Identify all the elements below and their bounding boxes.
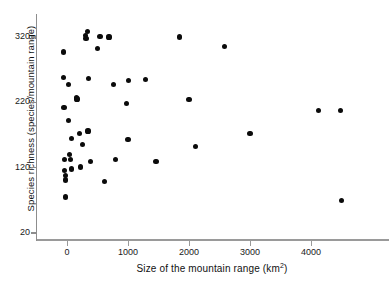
y-tick-label-20: 20 <box>0 227 30 237</box>
x-axis-title-base: Size of the mountain range (km <box>137 263 280 274</box>
data-point <box>125 137 130 142</box>
data-point <box>74 96 79 101</box>
data-point <box>83 36 88 41</box>
data-point <box>62 157 67 162</box>
data-point <box>316 108 321 113</box>
x-tick-label-0: 0 <box>45 247 89 257</box>
x-axis-title: Size of the mountain range (km2) <box>37 263 387 274</box>
y-tick-label-120: 120 <box>0 162 30 172</box>
x-tick-1000 <box>128 241 129 246</box>
data-point <box>247 131 252 136</box>
data-point <box>69 136 74 141</box>
data-point <box>338 108 343 113</box>
data-point <box>77 131 82 136</box>
data-point <box>61 49 66 54</box>
data-point <box>222 44 227 49</box>
data-point <box>102 179 107 184</box>
data-point <box>86 76 91 81</box>
data-point <box>186 97 191 102</box>
plot-data-area <box>37 14 389 240</box>
data-point <box>68 157 73 162</box>
data-point <box>97 34 102 39</box>
x-tick-0 <box>67 241 68 246</box>
scatter-plot-figure: Species richness (species/mountain range… <box>0 0 392 283</box>
data-point <box>61 105 66 110</box>
data-point <box>339 198 344 203</box>
data-point <box>78 164 83 169</box>
data-point <box>63 194 68 199</box>
data-point <box>63 177 68 182</box>
x-tick-label-1000: 1000 <box>106 247 150 257</box>
data-point <box>106 34 111 39</box>
data-point <box>85 128 90 133</box>
data-point <box>153 159 158 164</box>
x-tick-2000 <box>189 241 190 246</box>
y-tick-label-220: 220 <box>0 96 30 106</box>
data-point <box>95 46 100 51</box>
x-tick-3000 <box>250 241 251 246</box>
y-tick-label-320: 320 <box>0 31 30 41</box>
x-tick-label-2000: 2000 <box>167 247 211 257</box>
x-tick-label-4000: 4000 <box>289 247 333 257</box>
x-tick-label-3000: 3000 <box>228 247 272 257</box>
x-tick-4000 <box>311 241 312 246</box>
x-axis-title-tail: ) <box>284 263 287 274</box>
